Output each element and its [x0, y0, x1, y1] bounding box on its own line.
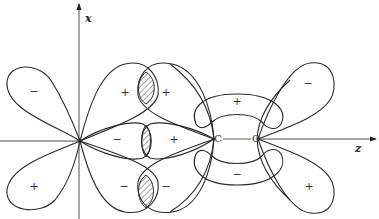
lobe-far-left-lower — [7, 141, 80, 210]
sign-pi-lower: − — [232, 168, 241, 181]
orbital-diagram-svg: C O x z − + + + − − − + + − − + — [0, 0, 379, 219]
sign-far-right-lower: + — [304, 180, 313, 193]
sign-mid-upper-left: + — [120, 86, 129, 99]
orbital-diagram: C O x z − + + + − − − + + − − + — [0, 0, 379, 219]
overlap-lower-hatched — [139, 175, 154, 208]
lobe-far-left-upper — [7, 67, 80, 141]
sign-center-right: + — [169, 133, 178, 146]
sign-mid-lower-right: − — [161, 180, 170, 193]
sign-mid-lower-left: − — [119, 180, 128, 193]
overlap-center-hatched — [142, 125, 151, 157]
z-axis-label: z — [354, 142, 362, 155]
sign-center-left: − — [112, 133, 121, 146]
sign-far-right-upper: − — [303, 77, 312, 90]
atom-carbon: C — [214, 133, 222, 144]
sign-far-left-upper: − — [29, 85, 38, 98]
sign-mid-upper-right: + — [161, 86, 170, 99]
atom-oxygen: O — [252, 133, 260, 144]
sign-far-left-lower: + — [29, 180, 38, 193]
sign-pi-upper: + — [232, 95, 241, 108]
x-axis-label: x — [84, 12, 92, 25]
